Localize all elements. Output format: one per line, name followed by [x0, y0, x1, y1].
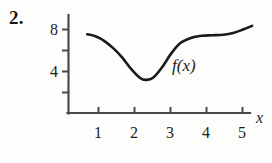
x-tick-label-3: 3: [162, 125, 178, 141]
x-tick-label-5: 5: [234, 125, 250, 141]
x-axis-label: x: [256, 110, 263, 126]
function-curve: [87, 26, 252, 80]
x-tick-label-2: 2: [126, 125, 142, 141]
x-tick-label-1: 1: [90, 125, 106, 141]
y-tick-label-8: 8: [42, 22, 58, 38]
y-tick-label-4: 4: [42, 64, 58, 80]
x-tick-label-4: 4: [198, 125, 214, 141]
figure-screenshot: 2. 8 4 1 2 3 4 5 x f(x): [0, 0, 272, 163]
curve-label-fx: f(x): [172, 57, 196, 74]
